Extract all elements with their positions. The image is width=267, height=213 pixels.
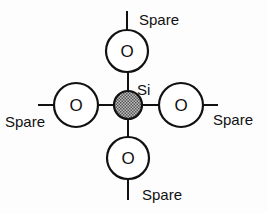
oxygen-bottom: O — [107, 137, 149, 179]
oxygen-label: O — [69, 96, 82, 115]
spare-label-left: Spare — [5, 113, 45, 130]
silicon-label: Si — [137, 81, 150, 98]
oxygen-label: O — [121, 149, 134, 168]
spare-label-top: Spare — [139, 11, 179, 28]
oxygen-label: O — [174, 96, 187, 115]
diagram-canvas: O O O O Si Spare Spare Spare Spare — [0, 0, 267, 213]
oxygen-left: O — [54, 83, 98, 127]
silicate-diagram: O O O O Si Spare Spare Spare Spare — [0, 0, 267, 213]
oxygen-label: O — [120, 42, 133, 61]
spare-label-bottom: Spare — [142, 186, 182, 203]
silicon-atom: Si — [114, 81, 150, 119]
spare-label-right: Spare — [213, 111, 253, 128]
oxygen-right: O — [159, 83, 203, 127]
oxygen-top: O — [106, 30, 148, 72]
